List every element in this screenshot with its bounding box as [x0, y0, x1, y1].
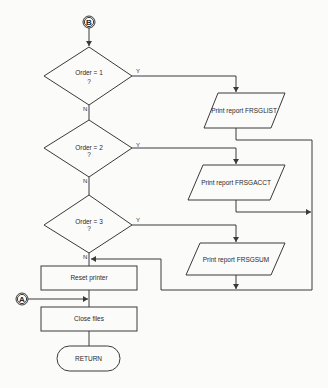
output-print-frsgsum: Print report FRSGSUM [186, 243, 285, 275]
connector-b: B [83, 16, 95, 28]
decision-2-question: ? [87, 151, 91, 158]
output-3-label: Print report FRSGSUM [203, 256, 269, 264]
connector-a-label: A [19, 295, 25, 304]
output-print-frsgacct: Print report FRSGACCT [188, 165, 285, 200]
decision-1-question: ? [87, 78, 91, 85]
decision-2-yes-label: Y [136, 142, 140, 148]
decision-order-3: Order = 3 ? Y N [44, 195, 140, 260]
flow-line-merge [236, 200, 311, 212]
terminator-return: RETURN [57, 346, 120, 371]
decision-2-label: Order = 2 [75, 144, 103, 151]
decision-3-yes-label: Y [136, 217, 140, 223]
decision-1-label: Order = 1 [75, 69, 103, 76]
flow-line-yes-2 [132, 148, 236, 164]
decision-3-question: ? [87, 225, 91, 232]
connector-b-label: B [86, 18, 92, 27]
output-2-label: Print report FRSGACCT [201, 179, 271, 187]
flow-line-yes-1 [132, 76, 236, 92]
decision-1-yes-label: Y [136, 68, 140, 74]
decision-order-2: Order = 2 ? Y N [44, 120, 140, 184]
decision-2-no-label: N [83, 178, 87, 184]
output-print-frsglist: Print report FRSGLIST [204, 93, 285, 128]
flowchart: B Order = 1 ? Y N Print report FRSGLIST … [0, 0, 328, 388]
process-reset-printer: Reset printer [41, 266, 137, 290]
decision-3-no-label: N [83, 254, 87, 260]
process-1-label: Reset printer [70, 274, 108, 282]
decision-3-label: Order = 3 [75, 218, 103, 225]
terminator-label: RETURN [75, 355, 102, 362]
output-1-label: Print report FRSGLIST [211, 107, 277, 115]
decision-order-1: Order = 1 ? Y N [44, 47, 140, 112]
process-close-files: Close files [41, 307, 137, 331]
process-2-label: Close files [74, 315, 105, 322]
decision-1-no-label: N [83, 106, 87, 112]
flow-line-yes-3 [132, 225, 236, 242]
connector-a: A [16, 293, 28, 305]
